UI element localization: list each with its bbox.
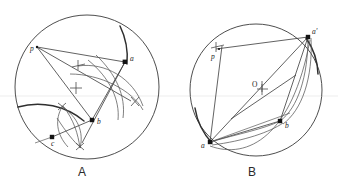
panel-a-tick-right	[131, 97, 139, 106]
panel-a-arc-right-vertical-2	[88, 60, 118, 120]
panel-a: p a b c A	[15, 15, 159, 179]
panel-a-center-cross	[70, 82, 82, 94]
panel-b-point-a	[208, 140, 212, 144]
panel-b-arc-outer-sweep	[210, 40, 310, 150]
panel-b-label-b: b	[285, 121, 289, 130]
panel-a-heavy-arc-a	[120, 26, 127, 64]
panel-b-label-center-o: O	[252, 80, 258, 89]
panel-a-label-b: b	[97, 117, 101, 126]
panel-a-point-a	[123, 60, 127, 64]
panel-b-arc-a-b-2	[212, 123, 283, 145]
panel-b-label-a: a	[201, 141, 205, 150]
panel-b-line-perp-bisector	[231, 75, 296, 119]
panel-a-circle	[15, 15, 159, 159]
panel-a-heavy-arc-c	[18, 104, 84, 121]
panel-a-caption: A	[78, 165, 86, 179]
panel-b-line-aprime-p	[216, 37, 308, 49]
panel-a-point-p	[36, 46, 38, 48]
panel-b-heavy-arc-a	[195, 108, 212, 143]
panel-b-point-p	[218, 48, 220, 50]
panel-a-label-a: a	[130, 54, 134, 63]
panel-b: a' p b a O B	[190, 24, 322, 179]
geometry-diagram: p a b c A	[0, 0, 338, 186]
panel-a-line-a-lower	[82, 62, 125, 143]
figure-root: p a b c A	[0, 0, 338, 186]
panel-b-point-a-prime	[306, 35, 310, 39]
panel-a-label-c: c	[51, 139, 55, 148]
panel-a-point-b	[90, 118, 94, 122]
panel-b-label-p: p	[210, 52, 215, 61]
panel-a-line-c-edge	[35, 137, 52, 143]
panel-b-label-a-prime: a'	[312, 27, 318, 36]
panel-b-point-b	[278, 119, 282, 123]
panel-a-tick-lens-bottom	[76, 143, 84, 150]
panel-b-caption: B	[248, 165, 256, 179]
panel-b-line-aprime-a	[210, 37, 308, 142]
panel-a-label-p: p	[29, 44, 34, 53]
